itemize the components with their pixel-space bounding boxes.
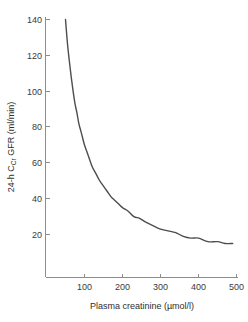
y-tick-label-100: 100 bbox=[27, 87, 42, 97]
y-tick-label-60: 60 bbox=[32, 158, 42, 168]
x-axis-ticks bbox=[85, 274, 237, 278]
x-tick-label-400: 400 bbox=[191, 282, 206, 292]
svg-text:24-h CCr GFR (ml/min): 24-h CCr GFR (ml/min) bbox=[6, 102, 17, 192]
y-axis-title-suffix: GFR (ml/min) bbox=[6, 102, 16, 159]
y-axis-title-prefix: 24-h C bbox=[6, 165, 16, 193]
gfr-creatinine-curve bbox=[66, 20, 233, 244]
x-tick-label-200: 200 bbox=[115, 282, 130, 292]
x-axis-title: Plasma creatinine (µmol/l) bbox=[90, 301, 194, 311]
x-tick-label-500: 500 bbox=[229, 282, 244, 292]
x-tick-label-100: 100 bbox=[77, 282, 92, 292]
chart-figure: 140 120 100 80 60 40 20 100 200 300 400 … bbox=[0, 0, 248, 322]
y-tick-label-20: 20 bbox=[32, 230, 42, 240]
y-tick-label-120: 120 bbox=[27, 51, 42, 61]
y-tick-label-80: 80 bbox=[32, 122, 42, 132]
x-tick-label-300: 300 bbox=[153, 282, 168, 292]
y-tick-label-40: 40 bbox=[32, 194, 42, 204]
chart-canvas: 140 120 100 80 60 40 20 100 200 300 400 … bbox=[0, 0, 248, 322]
y-axis-ticks bbox=[46, 20, 50, 235]
y-axis-title: 24-h CCr GFR (ml/min) bbox=[6, 102, 17, 192]
y-tick-label-140: 140 bbox=[27, 15, 42, 25]
